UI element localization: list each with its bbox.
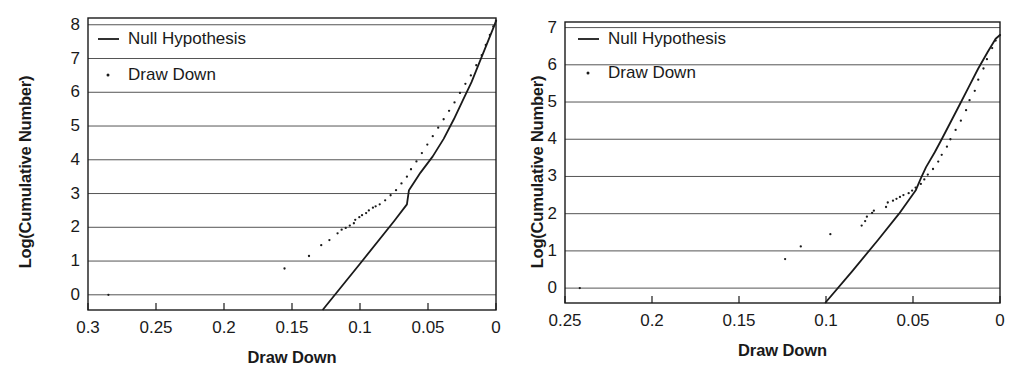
y-axis-tick-label: 3 — [42, 184, 80, 204]
data-point-draw-down — [495, 20, 497, 22]
data-point-draw-down — [107, 294, 109, 296]
data-point-draw-down — [986, 58, 988, 60]
x-axis-tick-label: 0.25 — [139, 318, 172, 338]
data-point-draw-down — [784, 258, 786, 260]
data-point-draw-down — [442, 118, 444, 120]
legend-label-draw-down: Draw Down — [608, 63, 696, 83]
y-axis-tick-label: 5 — [42, 116, 80, 136]
data-point-draw-down — [459, 92, 461, 94]
legend-dot-marker-icon — [587, 72, 590, 75]
data-point-draw-down — [406, 176, 408, 178]
y-axis-tick-label: 1 — [519, 241, 557, 261]
data-point-draw-down — [908, 192, 910, 194]
data-point-draw-down — [887, 201, 889, 203]
data-point-draw-down — [361, 214, 363, 216]
data-point-draw-down — [432, 135, 434, 137]
x-axis-tick-label: 0.2 — [212, 318, 236, 338]
data-point-draw-down — [991, 47, 993, 49]
data-point-draw-down — [372, 207, 374, 209]
data-point-draw-down — [340, 229, 342, 231]
data-point-draw-down — [999, 34, 1001, 36]
x-axis-tick-label: 0 — [995, 311, 1004, 331]
x-axis-tick-label: 0.2 — [640, 311, 664, 331]
data-point-draw-down — [345, 227, 347, 229]
y-axis-tick-label: 0 — [42, 285, 80, 305]
data-point-draw-down — [871, 212, 873, 214]
y-axis-tick-label: 6 — [42, 82, 80, 102]
data-point-draw-down — [914, 186, 916, 188]
data-point-draw-down — [384, 199, 386, 201]
x-axis-tick-label: 0.05 — [896, 311, 929, 331]
x-axis-tick-label: 0 — [491, 318, 500, 338]
y-axis-tick-label: 3 — [519, 166, 557, 186]
series-line-null-hypothesis — [323, 21, 496, 310]
y-axis-tick-label: 7 — [42, 49, 80, 69]
data-point-draw-down — [353, 222, 355, 224]
y-axis-tick-label: 2 — [519, 204, 557, 224]
data-point-draw-down — [941, 154, 943, 156]
data-point-draw-down — [892, 200, 894, 202]
y-axis-tick-label: 2 — [42, 217, 80, 237]
data-point-draw-down — [368, 209, 370, 211]
y-axis-tick-label: 8 — [42, 15, 80, 35]
data-point-draw-down — [308, 255, 310, 257]
data-point-draw-down — [358, 216, 360, 218]
data-point-draw-down — [336, 232, 338, 234]
data-point-draw-down — [492, 25, 494, 27]
data-point-draw-down — [349, 224, 351, 226]
data-point-draw-down — [475, 64, 477, 66]
x-axis-tick-label: 0.3 — [76, 318, 100, 338]
data-point-draw-down — [965, 109, 967, 111]
data-point-draw-down — [885, 206, 887, 208]
data-point-draw-down — [426, 143, 428, 145]
x-axis-label: Draw Down — [248, 348, 337, 367]
x-axis-tick-label: 0.05 — [411, 318, 444, 338]
x-axis-tick-label: 0.15 — [275, 318, 308, 338]
data-point-draw-down — [968, 99, 970, 101]
chart-panel-left: Log(Cumulative Number) 0123456780.30.250… — [0, 0, 512, 386]
data-point-draw-down — [374, 205, 376, 207]
data-point-draw-down — [485, 44, 487, 46]
data-point-draw-down — [379, 203, 381, 205]
figure-root: Log(Cumulative Number) 0123456780.30.250… — [0, 0, 1024, 386]
x-axis-tick-label: 0.25 — [548, 311, 581, 331]
data-point-draw-down — [415, 160, 417, 162]
data-point-draw-down — [579, 287, 581, 289]
y-axis-tick-label: 7 — [519, 18, 557, 38]
data-point-draw-down — [489, 34, 491, 36]
data-point-draw-down — [949, 138, 951, 140]
data-point-draw-down — [866, 216, 868, 218]
data-point-draw-down — [395, 189, 397, 191]
data-point-draw-down — [977, 79, 979, 81]
data-point-draw-down — [946, 146, 948, 148]
data-point-draw-down — [895, 198, 897, 200]
data-point-draw-down — [448, 110, 450, 112]
data-point-draw-down — [954, 129, 956, 131]
x-axis-label: Draw Down — [738, 341, 827, 360]
data-point-draw-down — [389, 194, 391, 196]
data-point-draw-down — [365, 212, 367, 214]
data-point-draw-down — [974, 90, 976, 92]
data-point-draw-down — [861, 224, 863, 226]
legend-label-null-hypothesis: Null Hypothesis — [608, 29, 726, 49]
data-point-draw-down — [464, 83, 466, 85]
data-point-draw-down — [400, 182, 402, 184]
legend-label-draw-down: Draw Down — [128, 65, 216, 85]
data-point-draw-down — [873, 210, 875, 212]
data-point-draw-down — [937, 160, 939, 162]
y-axis-tick-label: 5 — [519, 92, 557, 112]
data-point-draw-down — [923, 178, 925, 180]
y-axis-tick-label: 6 — [519, 55, 557, 75]
data-point-draw-down — [800, 245, 802, 247]
legend-label-null-hypothesis: Null Hypothesis — [128, 29, 246, 49]
data-point-draw-down — [920, 183, 922, 185]
data-point-draw-down — [960, 119, 962, 121]
x-axis-tick-label: 0.1 — [348, 318, 372, 338]
y-axis-tick-label: 4 — [42, 150, 80, 170]
data-point-draw-down — [995, 39, 997, 41]
data-point-draw-down — [902, 194, 904, 196]
y-axis-tick-label: 4 — [519, 129, 557, 149]
y-axis-tick-label: 0 — [519, 278, 557, 298]
data-point-draw-down — [453, 101, 455, 103]
x-axis-tick-label: 0.1 — [814, 311, 838, 331]
